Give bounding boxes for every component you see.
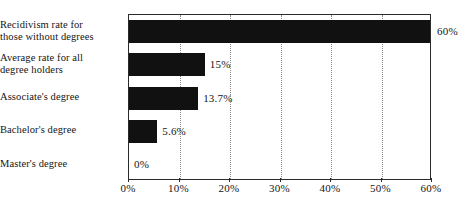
x-tick-label: 0% [120,182,135,194]
x-tick-label: 20% [219,182,240,194]
bar [129,120,157,143]
x-tick-label: 40% [320,182,341,194]
plot-area: 60%15%13.7%5.6%0% [128,14,431,180]
x-axis: 0%10%20%30%40%50%60% [128,182,431,202]
bar-chart: Recidivism rate forthose without degrees… [0,0,470,212]
category-label: Associate's degree [0,80,122,113]
category-label: Recidivism rate forthose without degrees [0,14,122,47]
x-tick-label: 60% [421,182,442,194]
bar-value-label: 5.6% [162,120,186,143]
bar-value-label: 15% [210,53,231,76]
x-tick-label: 50% [370,182,391,194]
bar-value-label: 0% [134,153,149,176]
bar [129,53,205,76]
x-tick-label: 30% [269,182,290,194]
category-axis-labels: Recidivism rate forthose without degrees… [0,14,128,180]
category-label: Master's degree [0,147,122,180]
bar [129,20,430,43]
category-label-line: Recidivism rate for [0,19,116,31]
category-label-line: Bachelor's degree [0,124,116,136]
x-tick-label: 10% [168,182,189,194]
plot-inner [129,15,430,179]
category-label-line: degree holders [0,64,116,76]
category-label: Bachelor's degree [0,114,122,147]
category-label-line: Associate's degree [0,91,116,103]
bar [129,87,198,110]
category-label-line: Master's degree [0,158,116,170]
bar-value-label: 13.7% [203,87,232,110]
bar-value-label: 60% [437,20,458,43]
category-label-line: Average rate for all [0,52,116,64]
category-label-line: those without degrees [0,31,116,43]
category-label: Average rate for alldegree holders [0,47,122,80]
